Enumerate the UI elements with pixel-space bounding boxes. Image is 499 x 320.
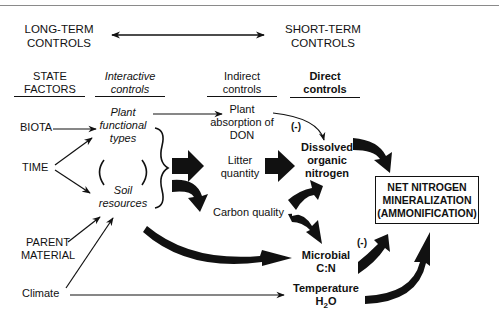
interactive-brace <box>155 128 168 208</box>
arrow-climate-to-soil <box>66 218 113 288</box>
thick-arrow-don-to-outcome <box>353 138 392 173</box>
right-interaction-paren <box>142 160 147 185</box>
arrow-time-to-soil <box>55 170 90 193</box>
diagram-arrows <box>0 0 499 320</box>
thick-arrow-carbon-to-don <box>288 180 323 210</box>
thick-arrow-to-carbon <box>172 180 208 212</box>
arrow-absorption-to-don-negative <box>273 113 324 140</box>
sweep-arrow-temperature-to-outcome <box>365 232 430 304</box>
thick-arrow-to-litter <box>172 150 204 182</box>
thick-arrow-carbon-to-microbial <box>288 214 322 244</box>
arrow-parent-to-soil <box>68 217 100 242</box>
thick-arrow-litter-to-don <box>265 150 295 182</box>
sweep-arrow-soil-to-microbial <box>143 226 292 266</box>
thick-arrow-microbial-to-outcome <box>358 234 390 274</box>
arrow-time-to-plant <box>55 138 92 165</box>
left-interaction-paren <box>100 160 105 185</box>
carbon-split-notch <box>292 210 310 216</box>
